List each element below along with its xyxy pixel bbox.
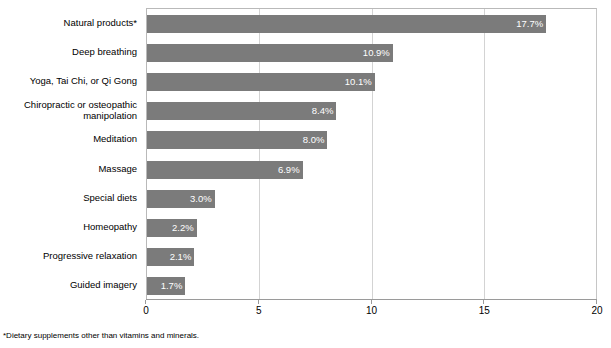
category-label: Deep breathing <box>0 46 142 58</box>
category-label: Progressive relaxation <box>0 250 142 262</box>
category-label: Massage <box>0 163 142 175</box>
bar-value-label: 10.1% <box>345 77 372 87</box>
x-tick-mark-5 <box>258 300 259 304</box>
bar-value-label: 8.4% <box>312 106 334 116</box>
category-label: Special diets <box>0 192 142 204</box>
x-tick-mark-20 <box>596 300 597 304</box>
bar: 10.9% <box>147 44 393 62</box>
x-tick-label-15: 15 <box>464 305 504 317</box>
bar: 2.2% <box>147 219 197 237</box>
category-axis-labels: Natural products*Deep breathingYoga, Tai… <box>0 8 142 300</box>
x-tick-label-20: 20 <box>577 305 611 317</box>
bar-value-label: 8.0% <box>303 135 325 145</box>
bar: 1.7% <box>147 277 185 295</box>
bar: 2.1% <box>147 248 194 266</box>
x-tick-mark-15 <box>483 300 484 304</box>
category-label: Guided imagery <box>0 279 142 291</box>
bar: 6.9% <box>147 161 303 179</box>
category-label: Chiropractic or osteopathic manipolation <box>0 99 142 122</box>
chart-footnote: *Dietary supplements other than vitamins… <box>3 331 199 341</box>
bar-value-label: 17.7% <box>516 19 543 29</box>
category-label: Yoga, Tai Chi, or Qi Gong <box>0 75 142 87</box>
bar: 8.4% <box>147 102 336 120</box>
bar: 3.0% <box>147 190 215 208</box>
bar-value-label: 2.2% <box>172 223 194 233</box>
bar-value-label: 1.7% <box>161 281 183 291</box>
bar-value-label: 10.9% <box>363 48 390 58</box>
x-tick-label-10: 10 <box>352 305 392 317</box>
bar-value-label: 2.1% <box>170 252 192 262</box>
horizontal-bar-chart: Natural products*Deep breathingYoga, Tai… <box>0 0 611 348</box>
category-label: Natural products* <box>0 17 142 29</box>
x-tick-mark-10 <box>371 300 372 304</box>
bar-value-label: 6.9% <box>278 165 300 175</box>
x-tick-mark-0 <box>145 300 146 304</box>
bar: 10.1% <box>147 73 375 91</box>
bar-value-label: 3.0% <box>190 194 212 204</box>
bar: 8.0% <box>147 131 327 149</box>
category-label: Meditation <box>0 133 142 145</box>
x-tick-label-0: 0 <box>126 305 166 317</box>
x-tick-label-5: 5 <box>239 305 279 317</box>
gridline-15 <box>484 9 485 299</box>
plot-area: 17.7%10.9%10.1%8.4%8.0%6.9%3.0%2.2%2.1%1… <box>146 8 597 300</box>
bar: 17.7% <box>147 15 546 33</box>
x-axis-line <box>146 299 597 300</box>
category-label: Homeopathy <box>0 221 142 233</box>
